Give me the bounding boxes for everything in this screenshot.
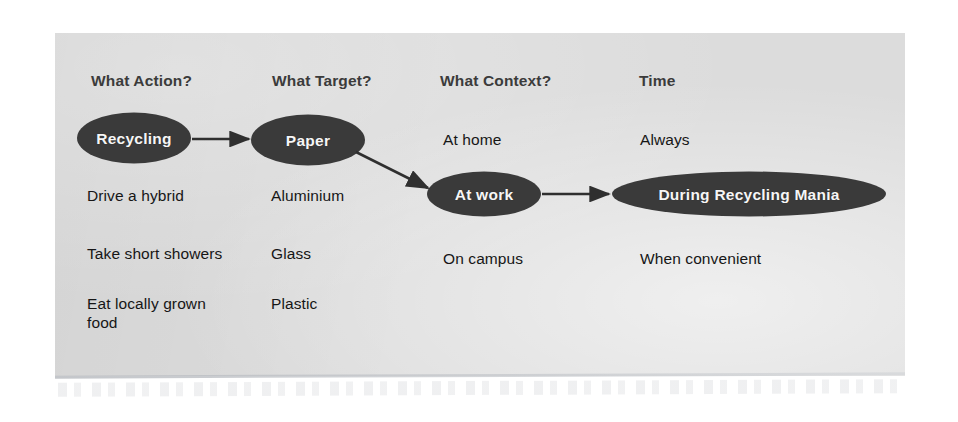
list-item-glass: Glass <box>271 244 311 263</box>
list-item-take-short-showers: Take short showers <box>87 244 222 263</box>
column-header-what-target: What Target? <box>272 72 372 90</box>
list-item-eat-locally-grown-food-line2: food <box>87 313 118 332</box>
scan-ghost-text-artifact <box>58 379 903 397</box>
list-item-at-home: At home <box>443 130 501 149</box>
list-item-eat-locally-grown-food-line1: Eat locally grown <box>87 294 206 313</box>
column-header-what-action: What Action? <box>91 72 192 90</box>
column-header-time: Time <box>639 72 676 90</box>
list-item-on-campus: On campus <box>443 249 523 268</box>
scanned-page-canvas: What Action? What Target? What Context? … <box>0 0 958 422</box>
list-item-aluminium: Aluminium <box>271 186 344 205</box>
node-label-recycling: Recycling <box>34 130 234 148</box>
node-label-paper: Paper <box>208 132 408 150</box>
list-item-plastic: Plastic <box>271 294 317 313</box>
node-label-during-recycling-mania: During Recycling Mania <box>599 186 899 204</box>
node-label-at-work: At work <box>384 186 584 204</box>
column-header-what-context: What Context? <box>440 72 551 90</box>
list-item-drive-a-hybrid: Drive a hybrid <box>87 186 184 205</box>
list-item-always: Always <box>640 130 690 149</box>
list-item-when-convenient: When convenient <box>640 249 761 268</box>
